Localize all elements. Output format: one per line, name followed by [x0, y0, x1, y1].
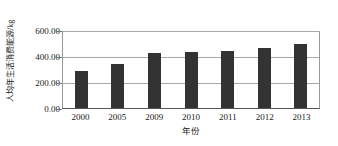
y-tick-label-600: 600.00: [16, 27, 60, 36]
x-tick-label-2012: 2012: [246, 112, 283, 122]
bar-slot-2011: [209, 31, 246, 108]
x-tick-label-2010: 2010: [173, 112, 210, 122]
bar-2012[interactable]: [258, 48, 271, 108]
x-tick-label-2000: 2000: [62, 112, 99, 122]
bar-chart-figure: 人均年生活消费能源/kg 600.00 400.00 200.00 0.00: [0, 0, 338, 146]
bar-2013[interactable]: [294, 44, 307, 108]
y-tickmark-0: [57, 109, 62, 110]
bar-2005[interactable]: [111, 64, 124, 108]
bar-slot-2012: [246, 31, 283, 108]
x-axis-title: 年份: [62, 126, 320, 136]
bar-2011[interactable]: [221, 51, 234, 108]
bar-2009[interactable]: [148, 53, 161, 108]
y-tick-label-0: 0.00: [16, 105, 60, 114]
plot-area: [62, 31, 320, 109]
bar-slot-2010: [173, 31, 210, 108]
x-tick-label-2011: 2011: [209, 112, 246, 122]
bar-slot-2013: [282, 31, 319, 108]
y-tick-label-200: 200.00: [16, 79, 60, 88]
bar-slot-2000: [63, 31, 100, 108]
x-tick-label-2013: 2013: [283, 112, 320, 122]
y-tick-label-400: 400.00: [16, 53, 60, 62]
y-axis-tick-labels: 600.00 400.00 200.00 0.00: [16, 0, 60, 146]
bar-2010[interactable]: [185, 52, 198, 108]
bar-slot-2009: [136, 31, 173, 108]
bars-layer: [63, 31, 319, 108]
x-tick-label-2005: 2005: [99, 112, 136, 122]
x-tick-label-2009: 2009: [136, 112, 173, 122]
bar-slot-2005: [100, 31, 137, 108]
bar-2000[interactable]: [75, 71, 88, 108]
x-axis-tick-labels: 2000 2005 2009 2010 2011 2012 2013: [62, 112, 320, 122]
